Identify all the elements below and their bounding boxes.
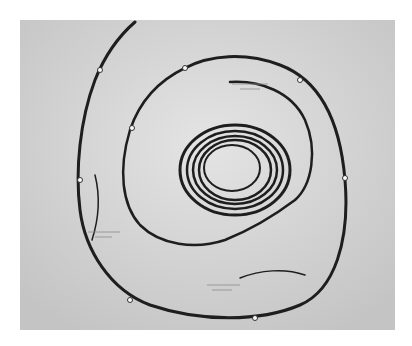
paper-background <box>20 20 395 330</box>
cord-photo-svg <box>20 20 395 330</box>
photograph <box>20 20 395 330</box>
